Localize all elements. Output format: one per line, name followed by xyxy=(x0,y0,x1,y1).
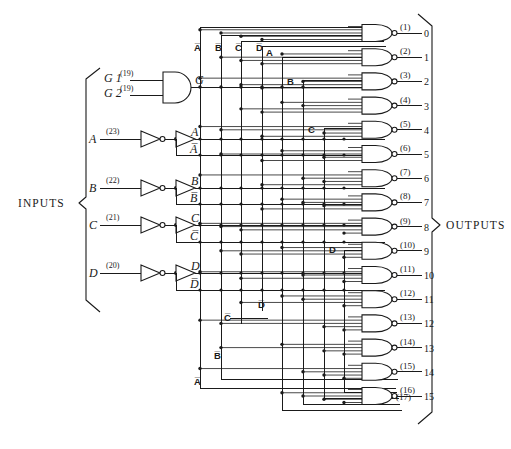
bus-junction-dot xyxy=(239,85,242,88)
bus-junction-dot xyxy=(322,153,325,156)
bus-junction-dot xyxy=(280,343,283,346)
bus-junction-dot xyxy=(239,252,242,255)
bus-junction-dot xyxy=(342,137,345,140)
bus-junction-dot xyxy=(239,288,242,291)
input-a-true-label: A xyxy=(190,125,199,139)
input-c-pin: (21) xyxy=(106,213,120,222)
bus-junction-dot xyxy=(239,137,242,140)
bus-junction-dot xyxy=(342,280,345,283)
input-b-comp-label: B̅ xyxy=(190,191,198,205)
bus-junction-dot xyxy=(342,377,345,380)
bus-junction-dot xyxy=(260,202,263,205)
bus-junction-dot xyxy=(301,394,304,397)
input-a-label: A xyxy=(88,132,97,146)
bus-junction-dot xyxy=(322,131,325,134)
bus-junction-dot xyxy=(219,186,222,189)
bus-junction-dot xyxy=(322,180,325,183)
bus-junction-dot xyxy=(280,391,283,394)
bus-junction-dot xyxy=(342,288,345,291)
bus-junction-dot xyxy=(219,153,222,156)
bus-junction-dot xyxy=(219,240,222,243)
bus-junction-dot xyxy=(260,186,263,189)
bus-junction-dot xyxy=(219,128,222,131)
bus-junction-dot xyxy=(322,223,325,226)
bus-junction-dot xyxy=(280,101,283,104)
bus-junction-dot xyxy=(198,240,201,243)
bus-junction-dot xyxy=(219,31,222,34)
bus-junction-dot xyxy=(342,231,345,234)
bus-junction-dot xyxy=(322,398,325,401)
output-pin-number: (15) xyxy=(400,361,415,371)
input-d-pin: (20) xyxy=(106,261,120,270)
bus-junction-dot xyxy=(301,223,304,226)
bus-junction-dot xyxy=(219,56,222,59)
bus-junction-dot xyxy=(198,137,201,140)
bus-junction-dot xyxy=(219,322,222,325)
bus-junction-dot xyxy=(342,202,345,205)
output-line-number: 4 xyxy=(424,125,429,136)
bus-junction-dot xyxy=(260,38,263,41)
output-pin-number: (8) xyxy=(400,191,411,201)
output-line-number: 7 xyxy=(424,197,429,208)
bus-junction-dot xyxy=(280,288,283,291)
bus-label-cbar-low: C̅ xyxy=(224,312,231,323)
bus-junction-dot xyxy=(239,277,242,280)
bus-junction-dot xyxy=(280,294,283,297)
bus-junction-dot xyxy=(301,288,304,291)
bus-junction-dot xyxy=(342,271,345,274)
input-b-label: B xyxy=(89,181,97,195)
output-pin-number: (11) xyxy=(400,264,415,274)
output-line-number: 9 xyxy=(424,246,429,257)
bus-label-a-top: A xyxy=(266,47,273,58)
bus-junction-dot xyxy=(280,202,283,205)
bus-junction-dot xyxy=(280,137,283,140)
bus-junction-dot xyxy=(322,186,325,189)
output-pin-number: (12) xyxy=(400,288,415,298)
bus-junction-dot xyxy=(239,186,242,189)
bus-junction-dot xyxy=(280,246,283,249)
bus-junction-dot xyxy=(239,228,242,231)
enable-g1-pin: (19) xyxy=(120,69,134,78)
input-b-pin: (22) xyxy=(106,176,120,185)
input-a-comp-label: A̅ xyxy=(189,142,198,156)
bus-junction-dot xyxy=(301,153,304,156)
bus-junction-dot xyxy=(239,301,242,304)
bus-junction-dot xyxy=(198,367,201,370)
bus-junction-dot xyxy=(301,177,304,180)
bus-junction-dot xyxy=(260,240,263,243)
bus-junction-dot xyxy=(239,153,242,156)
bus-junction-dot xyxy=(260,137,263,140)
output-line-number: 13 xyxy=(424,343,434,354)
bus-label-abar-low: A̅ xyxy=(194,376,201,387)
output-line-number: 8 xyxy=(424,222,429,233)
bus-junction-dot xyxy=(198,125,201,128)
output-pin-number: (10) xyxy=(400,240,415,250)
bus-junction-dot xyxy=(260,183,263,186)
bus-junction-dot xyxy=(322,137,325,140)
input-a-pin: (23) xyxy=(106,127,120,136)
bus-junction-dot xyxy=(342,328,345,331)
bus-label-bbar-top: B̅ xyxy=(215,42,222,53)
output-pin-17: (17) xyxy=(396,392,411,402)
output-pin-number: (2) xyxy=(400,46,411,56)
bus-junction-dot xyxy=(301,298,304,301)
bus-junction-dot xyxy=(260,159,263,162)
bus-junction-dot xyxy=(239,35,242,38)
bus-junction-dot xyxy=(280,240,283,243)
bus-junction-dot xyxy=(322,202,325,205)
bus-junction-dot xyxy=(198,153,201,156)
output-pin-number: (6) xyxy=(400,143,411,153)
bus-junction-dot xyxy=(342,186,345,189)
bus-junction-dot xyxy=(219,288,222,291)
bus-junction-dot xyxy=(342,153,345,156)
bus-junction-dot xyxy=(280,223,283,226)
output-pin-number: (4) xyxy=(400,95,411,105)
input-d-label: D xyxy=(88,266,98,280)
enable-g2-pin: (19) xyxy=(120,84,134,93)
bus-junction-dot xyxy=(322,240,325,243)
bus-junction-dot xyxy=(342,240,345,243)
bus-junction-dot xyxy=(322,349,325,352)
bus-junction-dot xyxy=(219,249,222,252)
bus-junction-dot xyxy=(260,288,263,291)
bus-junction-dot xyxy=(280,149,283,152)
